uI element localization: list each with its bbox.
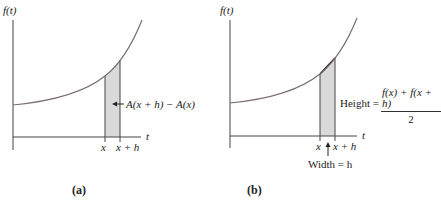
panel-b-tick-x: x (316, 141, 321, 152)
panel-a-curve (13, 20, 142, 105)
panel-a-shaded-area (105, 60, 120, 137)
panel-b-width-label: Width = h (308, 159, 352, 170)
panel-b-graph (230, 18, 357, 156)
panel-a-graph (13, 20, 142, 150)
panel-a-caption: (a) (72, 184, 86, 196)
panel-b-height-numerator: f(x) + f(x + h) (381, 87, 441, 112)
panel-a-tick-x-plus-h: x + h (116, 142, 139, 153)
panel-a-t-axis-label: t (146, 131, 149, 142)
panel-b-shaded-area (320, 58, 335, 136)
panel-b-height-label: Height = (340, 98, 379, 109)
panel-b-tick-x-plus-h: x + h (333, 141, 356, 152)
panel-a-y-axis-label: f(t) (3, 5, 16, 16)
panel-b-height-fraction: f(x) + f(x + h) 2 (381, 87, 441, 125)
panel-b-curve (230, 18, 357, 103)
panel-b-y-axis-label: f(t) (220, 5, 233, 16)
panel-b-t-axis-label: t (362, 130, 365, 141)
panel-b-height-denominator: 2 (408, 112, 414, 125)
panel-b-caption: (b) (247, 184, 262, 196)
panel-a-area-label: A(x + h) − A(x) (126, 99, 195, 110)
panel-b-width-arrow-head (326, 142, 331, 147)
panel-a-tick-x: x (101, 142, 106, 153)
